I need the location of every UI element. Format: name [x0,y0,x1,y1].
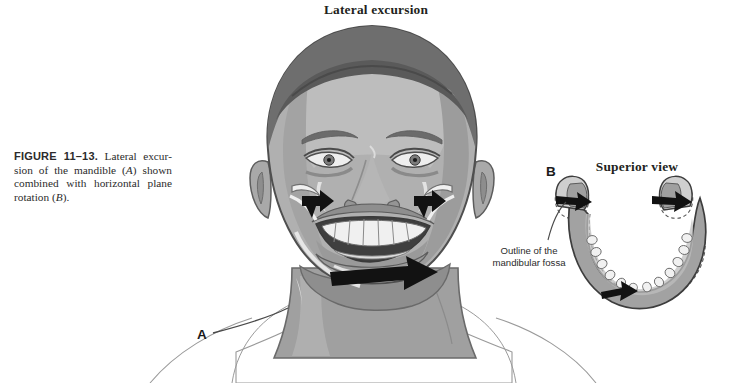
caption-italic-b: B [56,191,63,203]
panel-label-b: B [546,164,556,179]
mandible-superior-view [548,176,706,308]
panel-b-title: Superior view [578,159,696,175]
figure-number: FIGURE 11–13. [14,150,98,162]
callout-mandibular-fossa: Outline of the mandibular fossa [490,245,568,268]
panel-label-a: A [197,327,207,342]
caption-text-part3: ). [63,191,70,203]
caption-italic-a: A [126,164,133,176]
figure-caption: FIGURE 11–13. Lateral excur­sion of the … [14,150,172,204]
head-group [267,26,476,286]
leader-line-fossa [548,202,566,240]
figure-illustration-container: Lateral excursion Superior view A B Outl… [0,0,747,383]
panel-a-title: Lateral excursion [276,2,476,18]
